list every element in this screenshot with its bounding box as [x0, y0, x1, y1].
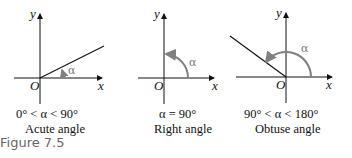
terminal-side [230, 36, 286, 77]
origin-label: O [276, 77, 286, 92]
right-angle-panel: y x O α α = 90° Right angle [138, 6, 218, 136]
origin-label: O [30, 78, 40, 93]
angle-arc [166, 54, 188, 78]
alpha-label: α [189, 56, 197, 69]
alpha-label: α [68, 64, 76, 77]
angle-name: Right angle [154, 122, 212, 136]
figure-caption: Figure 7.5 [0, 135, 65, 150]
alpha-label: α [301, 42, 309, 55]
obtuse-angle-panel: y x O α 90° < α < 180° Obtuse angle [230, 5, 332, 136]
angle-name: Acute angle [25, 122, 85, 136]
condition-label: 90° < α < 180° [244, 107, 318, 121]
x-label: x [211, 78, 218, 93]
angle-arc [62, 70, 63, 78]
x-label: x [325, 77, 332, 92]
condition-label: 0° < α < 90° [16, 107, 78, 121]
angle-name: Obtuse angle [255, 122, 321, 136]
y-label: y [274, 5, 282, 20]
x-label: x [97, 78, 104, 93]
origin-label: O [154, 78, 164, 93]
acute-angle-panel: y x O α 0° < α < 90° Acute angle [14, 6, 104, 136]
y-label: y [152, 6, 160, 21]
y-label: y [28, 6, 36, 21]
condition-label: α = 90° [159, 107, 196, 121]
angle-arc [266, 52, 311, 77]
